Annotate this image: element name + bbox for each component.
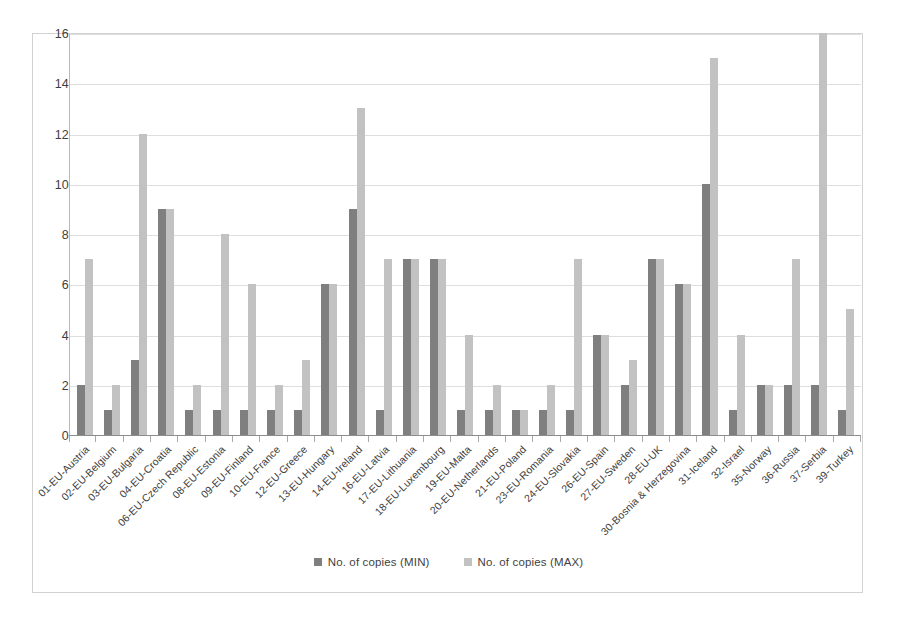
bar-max[interactable] <box>438 259 446 435</box>
bar-max[interactable] <box>710 58 718 435</box>
bar-group <box>125 34 152 435</box>
bar-max[interactable] <box>112 385 120 435</box>
bar-max[interactable] <box>384 259 392 435</box>
bar-max[interactable] <box>765 385 773 435</box>
bar-group <box>805 34 832 435</box>
x-tick <box>288 436 315 442</box>
bar-group <box>343 34 370 435</box>
x-tick <box>834 436 861 442</box>
bar-min[interactable] <box>621 385 629 435</box>
bar-max[interactable] <box>329 284 337 435</box>
x-tick <box>124 436 151 442</box>
x-tick <box>233 436 260 442</box>
bar-min[interactable] <box>485 410 493 435</box>
legend-item[interactable]: No. of copies (MIN) <box>314 556 430 568</box>
bar-max[interactable] <box>629 360 637 435</box>
bar-min[interactable] <box>430 259 438 435</box>
bar-group <box>289 34 316 435</box>
bar-min[interactable] <box>811 385 819 435</box>
bar-group <box>697 34 724 435</box>
bar-min[interactable] <box>566 410 574 435</box>
y-tick-label: 2 <box>35 379 69 393</box>
x-tick <box>779 436 806 442</box>
bar-min[interactable] <box>376 410 384 435</box>
bar-group <box>561 34 588 435</box>
bar-group <box>669 34 696 435</box>
bar-group <box>751 34 778 435</box>
bar-min[interactable] <box>104 410 112 435</box>
bars-layer <box>70 34 861 435</box>
x-tick <box>424 436 451 442</box>
bar-min[interactable] <box>593 335 601 436</box>
bar-max[interactable] <box>656 259 664 435</box>
bar-max[interactable] <box>846 309 854 435</box>
bar-group <box>234 34 261 435</box>
bar-min[interactable] <box>403 259 411 435</box>
bar-group <box>452 34 479 435</box>
x-tick <box>451 436 478 442</box>
legend-label: No. of copies (MAX) <box>478 556 584 568</box>
x-tick <box>178 436 205 442</box>
bar-max[interactable] <box>547 385 555 435</box>
bar-max[interactable] <box>275 385 283 435</box>
bar-min[interactable] <box>838 410 846 435</box>
x-tick <box>69 436 96 442</box>
bar-min[interactable] <box>349 209 357 435</box>
bar-min[interactable] <box>131 360 139 435</box>
x-tick <box>506 436 533 442</box>
bar-group <box>180 34 207 435</box>
bar-max[interactable] <box>792 259 800 435</box>
bar-max[interactable] <box>139 134 147 436</box>
bar-min[interactable] <box>539 410 547 435</box>
bar-max[interactable] <box>302 360 310 435</box>
bar-max[interactable] <box>193 385 201 435</box>
bar-min[interactable] <box>77 385 85 435</box>
x-tick <box>260 436 287 442</box>
bar-max[interactable] <box>601 335 609 436</box>
bar-max[interactable] <box>85 259 93 435</box>
bar-min[interactable] <box>729 410 737 435</box>
bar-max[interactable] <box>221 234 229 435</box>
x-tick <box>533 436 560 442</box>
bar-max[interactable] <box>357 108 365 435</box>
legend-item[interactable]: No. of copies (MAX) <box>464 556 584 568</box>
bar-min[interactable] <box>784 385 792 435</box>
bar-max[interactable] <box>248 284 256 435</box>
x-tick <box>479 436 506 442</box>
x-tick <box>697 436 724 442</box>
y-tick-label: 6 <box>35 278 69 292</box>
bar-max[interactable] <box>819 33 827 435</box>
bar-min[interactable] <box>321 284 329 435</box>
bar-min[interactable] <box>702 184 710 435</box>
bar-group <box>425 34 452 435</box>
bar-max[interactable] <box>683 284 691 435</box>
chart-legend: No. of copies (MIN)No. of copies (MAX) <box>33 556 864 568</box>
bar-min[interactable] <box>648 259 656 435</box>
x-tick <box>725 436 752 442</box>
legend-swatch-max <box>464 558 472 566</box>
bar-max[interactable] <box>411 259 419 435</box>
bar-min[interactable] <box>294 410 302 435</box>
bar-group <box>207 34 234 435</box>
bar-max[interactable] <box>520 410 528 435</box>
x-tick <box>206 436 233 442</box>
bar-min[interactable] <box>185 410 193 435</box>
bar-min[interactable] <box>757 385 765 435</box>
bar-min[interactable] <box>158 209 166 435</box>
bar-min[interactable] <box>213 410 221 435</box>
bar-group <box>778 34 805 435</box>
bar-min[interactable] <box>512 410 520 435</box>
bar-max[interactable] <box>574 259 582 435</box>
y-tick-label: 12 <box>35 128 69 142</box>
bar-min[interactable] <box>675 284 683 435</box>
bar-max[interactable] <box>166 209 174 435</box>
x-tick <box>342 436 369 442</box>
bar-max[interactable] <box>493 385 501 435</box>
bar-min[interactable] <box>267 410 275 435</box>
bar-group <box>506 34 533 435</box>
bar-min[interactable] <box>457 410 465 435</box>
bar-group <box>153 34 180 435</box>
bar-max[interactable] <box>737 335 745 436</box>
bar-max[interactable] <box>465 335 473 436</box>
bar-min[interactable] <box>240 410 248 435</box>
